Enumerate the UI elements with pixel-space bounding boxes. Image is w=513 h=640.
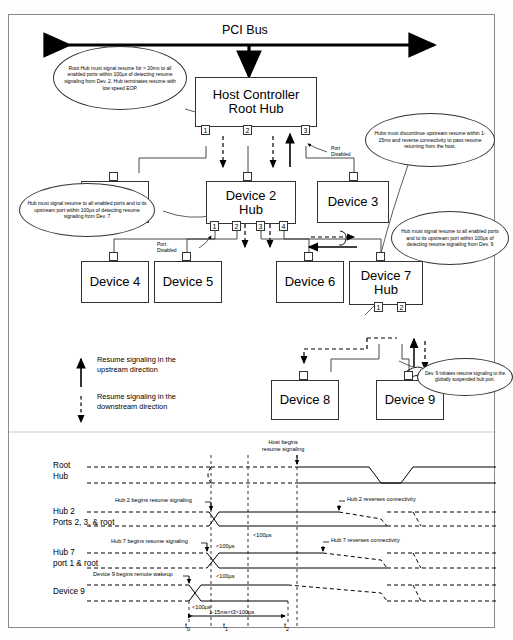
- callout-hub-dev9: Hub must signal resume to all enabled po…: [391, 211, 509, 265]
- device2-hub-port-4[interactable]: 4: [279, 221, 288, 231]
- device7-hub-box[interactable]: Device 7 Hub: [349, 261, 423, 305]
- duration-dev9: <100µs: [216, 573, 235, 580]
- pci-bus-label: PCI Bus: [222, 23, 268, 37]
- device6-box[interactable]: Device 6: [276, 261, 344, 303]
- duration-t0-t1: <100µs: [192, 604, 211, 611]
- timing-row-root-hub-line2: Hub: [53, 472, 68, 482]
- callout-dev9-initiates: Dev. 9 initiates resume signaling to the…: [417, 358, 513, 396]
- diagram-frame: PCI Bus Host Controller Root Hub 1 2 3 P…: [8, 14, 495, 628]
- duration-hub7: <100µs: [216, 543, 235, 550]
- device9-label: Device 9: [385, 393, 436, 407]
- time-mark-t2: t2: [284, 621, 289, 632]
- annot-dev9-wakeup: Device 9 begins remote wakeup: [93, 571, 173, 578]
- callout-hub-dev7: Hub must signal resume to all enabled po…: [19, 183, 155, 237]
- callout-hubs-discontinue: Hubs must discontinue upstream resume wi…: [365, 113, 495, 167]
- root-hub-port-1[interactable]: 1: [201, 125, 210, 135]
- device8-upstream-stub: [299, 371, 308, 380]
- device5-box[interactable]: Device 5: [154, 261, 222, 303]
- annot-hub2-reverses: Hub 2 reverses connectivity: [347, 496, 416, 503]
- device2-upstream-stub: [243, 172, 252, 181]
- device7-hub-port-2[interactable]: 2: [397, 302, 406, 312]
- device4-label: Device 4: [90, 275, 141, 289]
- device9-upstream-stub: [404, 371, 413, 380]
- device7-upstream-stub: [376, 252, 385, 261]
- duration-hub2: <100µs: [253, 532, 272, 539]
- device6-upstream-stub: [304, 252, 313, 261]
- device2-label-line2: Hub: [239, 203, 263, 217]
- device2-port1-disabled-label: Port Disabled: [157, 241, 176, 254]
- time-mark-t2-sub: 2: [286, 626, 289, 632]
- time-mark-t0-sub: 0: [187, 626, 190, 632]
- annot-host-begins: Host begins resume signaling: [262, 439, 304, 452]
- device3-box[interactable]: Device 3: [317, 181, 389, 223]
- time-mark-t1: t1: [223, 621, 228, 632]
- root-hub-port3-disabled-label: Port Disabled: [331, 145, 350, 158]
- device2-hub-port-2[interactable]: 2: [232, 221, 241, 231]
- device8-box[interactable]: Device 8: [271, 380, 339, 420]
- device3-upstream-stub: [349, 172, 358, 181]
- device5-upstream-stub: [182, 252, 191, 261]
- annot-hub7-reverses: Hub 7 reverses connectivity: [331, 537, 400, 544]
- time-mark-t0: t0: [185, 621, 190, 632]
- host-controller-root-hub-box[interactable]: Host Controller Root Hub: [195, 77, 317, 127]
- duration-span: 1-15ms<t3>100µs: [209, 609, 254, 616]
- root-hub-port-2[interactable]: 2: [243, 125, 252, 135]
- device7-hub-port-1[interactable]: 1: [374, 302, 383, 312]
- timing-row-hub2-line1: Hub 2: [53, 507, 75, 517]
- time-mark-t1-sub: 1: [225, 626, 228, 632]
- device3-label: Device 3: [328, 195, 379, 209]
- device2-hub-port-1[interactable]: 1: [210, 221, 219, 231]
- device4-upstream-stub: [109, 252, 118, 261]
- device6-label: Device 6: [285, 275, 336, 289]
- device4-box[interactable]: Device 4: [81, 261, 149, 303]
- timing-row-root-hub-line1: Root: [53, 461, 70, 471]
- legend-upstream-text: Resume signaling in the upstream directi…: [97, 355, 189, 374]
- device5-label: Device 5: [163, 275, 214, 289]
- root-hub-port-3[interactable]: 3: [301, 125, 310, 135]
- timing-row-device9-line1: Device 9: [53, 587, 85, 597]
- device1-upstream-stub: [109, 172, 118, 181]
- legend-downstream-text: Resume signaling in the downstream direc…: [97, 392, 189, 411]
- callout-root-hub: Root Hub must signal resume for > 20ms t…: [53, 46, 187, 110]
- timing-row-hub7-line2: port 1 & root: [53, 559, 98, 569]
- host-controller-line2: Root Hub: [229, 102, 284, 116]
- annot-hub2-begins: Hub 2 begins resume signaling: [115, 497, 192, 504]
- device7-label-line2: Hub: [374, 283, 398, 297]
- device8-label: Device 8: [280, 393, 331, 407]
- host-controller-line1: Host Controller: [213, 88, 300, 102]
- device2-hub-port-3[interactable]: 3: [256, 221, 265, 231]
- annot-hub7-begins: Hub 7 begins resume signaling: [111, 538, 188, 545]
- device2-label-line1: Device 2: [226, 189, 277, 203]
- device7-label-line1: Device 7: [361, 269, 412, 283]
- timing-row-hub2-line2: Ports 2, 3, & root: [53, 518, 114, 528]
- device2-hub-box[interactable]: Device 2 Hub: [206, 181, 296, 224]
- timing-row-hub7-line1: Hub 7: [53, 548, 75, 558]
